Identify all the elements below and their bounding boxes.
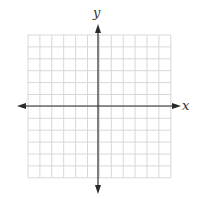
arrow-up-icon <box>95 24 101 33</box>
y-axis-label: y <box>92 5 101 20</box>
coordinate-plane: x y <box>0 0 198 199</box>
arrow-left-icon <box>17 103 26 109</box>
arrow-right-icon <box>172 103 181 109</box>
x-axis-label: x <box>182 98 190 113</box>
arrow-down-icon <box>95 185 101 194</box>
